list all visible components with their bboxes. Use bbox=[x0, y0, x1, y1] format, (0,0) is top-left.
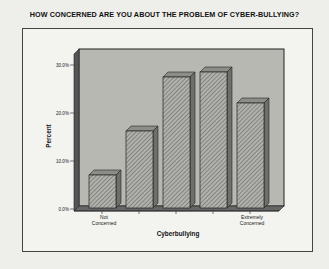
x-tick-5b: Concerned bbox=[240, 220, 265, 226]
bar-chart: 0.0% 10.0% 20.0% 30.0% Percent Not bbox=[0, 0, 329, 269]
bar-extremely-concerned bbox=[237, 103, 264, 208]
y-tick-10: 10.0% bbox=[56, 159, 69, 164]
bar-3 bbox=[163, 77, 190, 208]
left-wall bbox=[74, 49, 79, 211]
bar-4 bbox=[200, 72, 227, 208]
y-tick-30: 30.0% bbox=[56, 63, 69, 68]
y-axis-label: Percent bbox=[45, 123, 52, 147]
x-axis-label: Cyberbullying bbox=[157, 230, 200, 238]
y-axis-ticks: 0.0% 10.0% 20.0% 30.0% bbox=[56, 63, 74, 212]
y-tick-0: 0.0% bbox=[59, 207, 69, 212]
x-axis-ticks: Not Concerned Extremely Concerned bbox=[92, 211, 265, 226]
bar-not-concerned bbox=[89, 175, 116, 208]
x-tick-1b: Concerned bbox=[92, 220, 117, 226]
y-tick-20: 20.0% bbox=[56, 111, 69, 116]
bar-2 bbox=[126, 131, 153, 208]
